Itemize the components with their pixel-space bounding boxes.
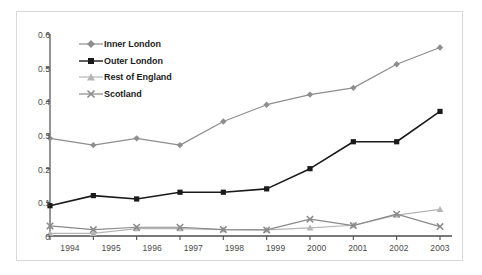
data-point-square — [307, 166, 312, 171]
series-scotland — [47, 211, 443, 233]
data-point-square — [437, 109, 442, 114]
x-tick-label-1997: 1997 — [173, 243, 213, 253]
y-tick-label-1: 0.5 — [26, 64, 50, 74]
data-point-square — [394, 139, 399, 144]
data-point-diamond — [220, 118, 226, 124]
x-tick-label-1999: 1999 — [256, 243, 296, 253]
data-point-square — [91, 193, 96, 198]
series-rest-of-england — [47, 206, 444, 236]
y-tick-label-3: 0.3 — [26, 131, 50, 141]
x-tick-label-2001: 2001 — [338, 243, 378, 253]
data-point-square — [351, 139, 356, 144]
x-tick-label-1995: 1995 — [91, 243, 131, 253]
data-point-diamond — [133, 135, 139, 141]
legend-marker-square-icon — [78, 54, 104, 68]
chart-container: 0.6 0.5 0.4 0.3 0.2 0.1 0 1994 1995 1996… — [0, 0, 482, 275]
legend-item-inner-london: Inner London — [78, 36, 210, 53]
data-point-diamond — [90, 142, 96, 148]
x-tick-label-2002: 2002 — [379, 243, 419, 253]
legend-label-scotland: Scotland — [104, 89, 142, 99]
data-point-diamond — [307, 91, 313, 97]
data-point-diamond — [350, 85, 356, 91]
y-tick-label-6: 0 — [26, 232, 50, 242]
x-tick-label-1996: 1996 — [132, 243, 172, 253]
series-line — [50, 111, 440, 205]
chart-plot-area — [0, 0, 482, 275]
legend-item-outer-london: Outer London — [78, 53, 210, 70]
data-point-triangle — [437, 206, 444, 212]
data-point-square — [221, 190, 226, 195]
x-tick-label-2003: 2003 — [420, 243, 460, 253]
y-tick-label-5: 0.1 — [26, 198, 50, 208]
data-point-square — [177, 190, 182, 195]
legend-marker-diamond-icon — [78, 37, 104, 51]
x-tick-label-2000: 2000 — [297, 243, 337, 253]
data-point-diamond — [393, 61, 399, 67]
chart-legend: Inner London Outer London Rest of Englan… — [78, 36, 210, 102]
y-tick-label-4: 0.2 — [26, 165, 50, 175]
legend-label-outer-london: Outer London — [104, 56, 163, 66]
legend-marker-triangle-icon — [78, 70, 104, 84]
series-line — [50, 214, 440, 230]
data-point-diamond — [437, 44, 443, 50]
legend-item-rest-of-england: Rest of England — [78, 69, 210, 86]
y-tick-label-0: 0.6 — [26, 30, 50, 40]
legend-marker-cross-icon — [78, 87, 104, 101]
series-outer-london — [47, 109, 442, 208]
data-point-diamond — [177, 142, 183, 148]
legend-item-scotland: Scotland — [78, 86, 210, 103]
x-tick-label-1994: 1994 — [50, 243, 90, 253]
y-tick-label-2: 0.4 — [26, 97, 50, 107]
legend-label-inner-london: Inner London — [104, 39, 161, 49]
legend-label-rest-of-england: Rest of England — [104, 72, 172, 82]
data-point-diamond — [263, 102, 269, 108]
data-point-square — [264, 186, 269, 191]
x-tick-label-1998: 1998 — [214, 243, 254, 253]
data-point-square — [134, 196, 139, 201]
